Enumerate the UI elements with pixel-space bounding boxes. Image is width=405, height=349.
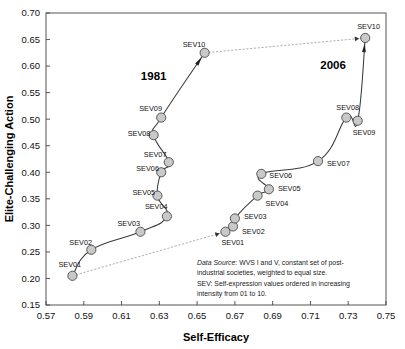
data-point-marker: [68, 271, 77, 280]
x-tick-label: 0.73: [339, 310, 358, 321]
data-point-marker: [149, 131, 158, 140]
data-point-label: SEV08: [128, 129, 151, 138]
data-point-marker: [353, 116, 362, 125]
y-tick-label: 0.25: [22, 246, 41, 257]
y-tick-label: 0.20: [22, 273, 41, 284]
data-point-marker: [342, 113, 351, 122]
y-tick-label: 0.70: [22, 7, 41, 18]
y-tick-label: 0.50: [22, 114, 41, 125]
x-tick-label: 0.59: [75, 310, 94, 321]
data-point-label: SEV07: [144, 150, 167, 159]
chart-figure: 0.150.200.250.300.350.400.450.500.550.60…: [0, 0, 405, 349]
data-point-marker: [361, 33, 370, 42]
data-point-label: SEV05: [278, 184, 301, 193]
data-point-label: SEV04: [145, 202, 168, 211]
data-point-label: SEV09: [139, 104, 162, 113]
data-point-label: SEV09: [353, 128, 376, 137]
data-point-marker: [257, 169, 266, 178]
y-tick-label: 0.40: [22, 167, 41, 178]
x-tick-label: 0.65: [188, 310, 207, 321]
data-point-label: SEV01: [221, 238, 244, 247]
note-line-1-rest: : WVS I and V, constant set of post-: [235, 259, 344, 267]
x-tick-label: 0.63: [150, 310, 169, 321]
scatter-chart-canvas: 0.150.200.250.300.350.400.450.500.550.60…: [0, 0, 405, 349]
y-axis-title: Elite-Challenging Action: [3, 95, 15, 222]
x-tick-label: 0.75: [377, 310, 396, 321]
x-axis-title: Self-Efficacy: [183, 331, 250, 343]
data-point-label: SEV07: [327, 159, 350, 168]
x-tick-label: 0.61: [112, 310, 131, 321]
note-line-1: Data Source: WVS I and V, constant set o…: [197, 259, 344, 267]
data-point-label: SEV01: [58, 260, 81, 269]
data-point-marker: [253, 191, 262, 200]
data-point-marker: [230, 214, 239, 223]
x-tick-label: 0.71: [301, 310, 320, 321]
data-point-label: SEV08: [336, 103, 359, 112]
data-point-label: SEV06: [269, 171, 292, 180]
y-tick-label: 0.65: [22, 34, 41, 45]
x-tick-label: 0.57: [37, 310, 56, 321]
data-point-marker: [313, 157, 322, 166]
note-line-3: SEV: Self-expression values ordered in i…: [197, 280, 350, 288]
data-point-marker: [157, 113, 166, 122]
y-tick-label: 0.30: [22, 220, 41, 231]
data-point-label: SEV06: [136, 164, 159, 173]
y-tick-label: 0.60: [22, 60, 41, 71]
data-point-marker: [162, 212, 171, 221]
x-tick-label: 0.69: [263, 310, 282, 321]
y-tick-label: 0.35: [22, 193, 41, 204]
y-tick-label: 0.55: [22, 87, 41, 98]
note-emphasis: Data Source: [197, 259, 235, 266]
y-tick-label: 0.45: [22, 140, 41, 151]
data-point-label: SEV02: [69, 238, 92, 247]
data-point-label: SEV04: [266, 199, 289, 208]
era-1981: 1981: [141, 70, 167, 82]
data-point-label: SEV10: [183, 40, 206, 49]
note-line-2: industrial societies, weighted to equal …: [197, 269, 327, 277]
data-point-marker: [200, 48, 209, 57]
data-point-label: SEV05: [132, 188, 155, 197]
data-point-label: SEV02: [242, 227, 265, 236]
data-point-label: SEV03: [117, 219, 140, 228]
y-tick-label: 0.15: [22, 299, 41, 310]
data-point-marker: [136, 227, 145, 236]
data-point-marker: [264, 185, 273, 194]
era-2006: 2006: [320, 59, 346, 71]
data-point-label: SEV10: [357, 22, 380, 31]
note-line-4: intensity from 01 to 10.: [197, 290, 267, 298]
data-point-label: SEV03: [244, 212, 267, 221]
x-tick-label: 0.67: [226, 310, 245, 321]
